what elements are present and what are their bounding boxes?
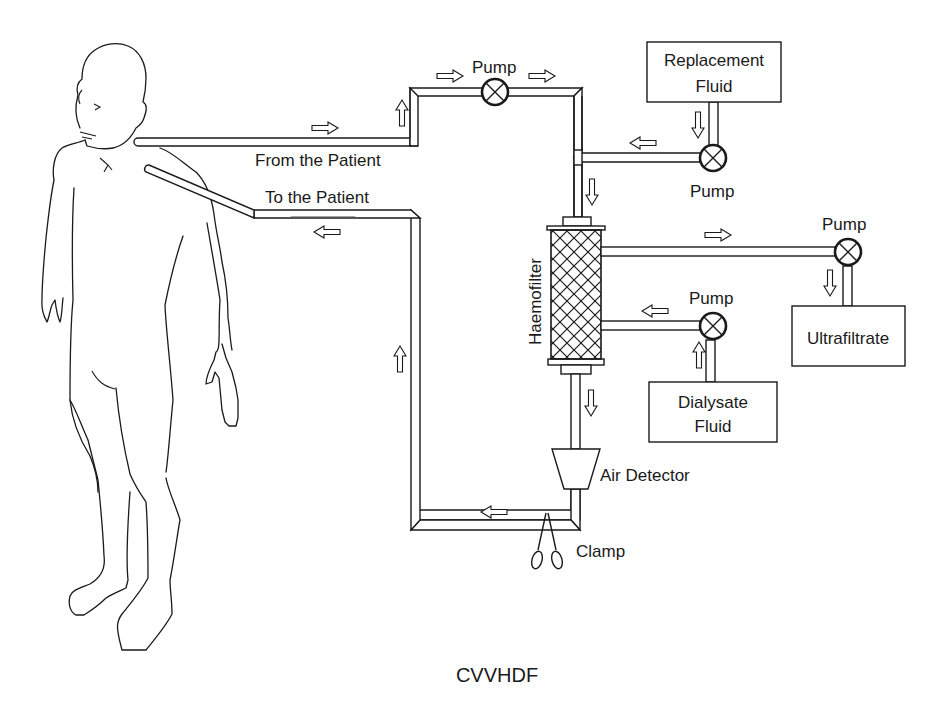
flow-arrow-icon: [314, 226, 340, 238]
ultrafiltrate-label: Ultrafiltrate: [807, 329, 889, 348]
ultrafiltrate-box: Ultrafiltrate: [792, 306, 905, 366]
flow-arrow-icon: [692, 112, 704, 138]
patient-figure: [42, 44, 238, 650]
flow-arrow-icon: [529, 70, 555, 82]
dialysate-fluid-label-2: Fluid: [695, 417, 732, 436]
patient-head: [76, 44, 146, 149]
flow-arrow-icon: [585, 390, 597, 416]
air-detector-label: Air Detector: [600, 466, 690, 485]
dialysate-pump-label: Pump: [689, 289, 733, 308]
replacement-fluid-box: Replacement Fluid: [647, 42, 781, 102]
haemofilter-icon: [551, 230, 601, 359]
dialysate-fluid-label-1: Dialysate: [678, 393, 748, 412]
patient-torso: [42, 140, 232, 350]
to-patient-label: To the Patient: [265, 188, 369, 207]
diagram-title: CVVHDF: [456, 664, 538, 686]
replacement-pump-label: Pump: [690, 182, 734, 201]
flow-arrow-icon: [824, 270, 836, 296]
replacement-pump-icon: [700, 145, 726, 171]
haemofilter-label: Haemofilter: [526, 258, 545, 345]
venous-line: [145, 165, 254, 218]
blood-pump-label: Pump: [472, 58, 516, 77]
flow-arrow-icon: [693, 342, 705, 368]
dialysate-fluid-box: Dialysate Fluid: [649, 382, 777, 442]
air-detector-icon: [552, 449, 600, 489]
flow-arrow-icon: [394, 346, 406, 372]
ultrafiltrate-pump-icon: [835, 239, 861, 265]
flow-arrow-icon: [586, 179, 598, 205]
arterial-line: [134, 138, 410, 146]
ultrafiltrate-pump-label: Pump: [822, 215, 866, 234]
flow-arrow-icon: [630, 137, 656, 149]
replacement-fluid-label-2: Fluid: [696, 77, 733, 96]
flow-arrow-icon: [437, 70, 463, 82]
from-patient-label: From the Patient: [255, 151, 381, 170]
clamp-label: Clamp: [576, 542, 625, 561]
replacement-fluid-label-1: Replacement: [664, 51, 764, 70]
patient-legs: [69, 388, 180, 650]
tubing: [134, 88, 852, 530]
flow-arrow-icon: [312, 122, 338, 134]
flow-arrow-icon: [396, 100, 408, 126]
cvvhdf-diagram: Replacement Fluid Ultrafiltrate Dialysat…: [0, 0, 945, 722]
flow-arrow-icon: [705, 229, 731, 241]
blood-pump-icon: [482, 79, 508, 105]
flow-arrow-icon: [642, 305, 668, 317]
dialysate-pump-icon: [700, 313, 726, 339]
